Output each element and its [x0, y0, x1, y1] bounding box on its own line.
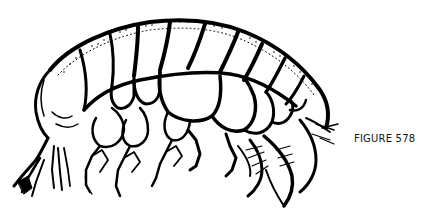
- amphipod-illustration: [0, 0, 350, 220]
- figure-caption: FIGURE 578: [354, 133, 415, 144]
- figure: FIGURE 578: [0, 0, 442, 220]
